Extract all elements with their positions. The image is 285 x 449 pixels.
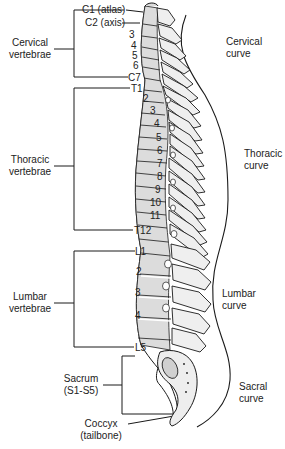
label-c7: C7: [128, 72, 141, 83]
label-t5: 5: [156, 133, 162, 143]
label-l2: 2: [136, 267, 142, 277]
label-t8: 8: [157, 172, 163, 182]
label-t10: 10: [150, 198, 161, 208]
sacrum-coccyx: [158, 350, 197, 426]
curve-label-line: Thoracic: [244, 148, 282, 160]
group-label-cervical: Cervical vertebrae: [6, 37, 54, 61]
label-c6: 6: [133, 61, 139, 71]
group-label-coccyx: Coccyx (tailbone): [76, 418, 126, 442]
group-label-line: Sacrum: [58, 373, 104, 385]
label-l3: 3: [135, 288, 141, 298]
label-t6: 6: [157, 146, 163, 156]
label-l4: 4: [135, 311, 141, 321]
group-label-line: Thoracic: [6, 154, 54, 166]
group-label-line: vertebrae: [6, 166, 54, 178]
curve-label-sacral: Sacral curve: [239, 381, 267, 405]
curve-label-line: Sacral: [239, 381, 267, 393]
spine-diagram: Cervical vertebrae Thoracic vertebrae Lu…: [0, 0, 285, 449]
curve-label-line: curve: [239, 393, 267, 405]
label-t1: T1: [131, 83, 143, 94]
group-label-line: (S1-S5): [58, 385, 104, 397]
group-label-sacrum: Sacrum (S1-S5): [58, 373, 104, 397]
label-c1: C1 (atlas): [82, 4, 125, 15]
curve-label-line: curve: [222, 300, 256, 312]
curve-label-thoracic: Thoracic curve: [244, 148, 282, 172]
curve-label-line: Lumbar: [222, 288, 256, 300]
group-label-thoracic: Thoracic vertebrae: [6, 154, 54, 178]
group-label-line: Coccyx: [76, 418, 126, 430]
label-l5: L5: [135, 342, 146, 353]
curve-label-line: curve: [244, 160, 282, 172]
label-t12: T12: [134, 225, 151, 236]
label-t9: 9: [155, 185, 161, 195]
group-label-line: vertebrae: [6, 303, 54, 315]
label-t11: 11: [150, 211, 160, 221]
curve-label-line: curve: [226, 48, 262, 60]
label-t3: 3: [150, 106, 156, 116]
label-t7: 7: [157, 159, 163, 169]
label-c2: C2 (axis): [85, 17, 125, 28]
group-label-line: vertebrae: [6, 49, 54, 61]
label-t4: 4: [154, 119, 160, 129]
group-label-lumbar: Lumbar vertebrae: [6, 291, 54, 315]
curve-label-cervical: Cervical curve: [226, 36, 262, 60]
curve-label-line: Cervical: [226, 36, 262, 48]
group-label-line: Cervical: [6, 37, 54, 49]
label-c3: 3: [129, 30, 135, 40]
group-label-line: Lumbar: [6, 291, 54, 303]
curve-label-lumbar: Lumbar curve: [222, 288, 256, 312]
label-t2: 2: [143, 94, 149, 104]
label-l1: L1: [135, 246, 146, 257]
group-label-line: (tailbone): [76, 430, 126, 442]
